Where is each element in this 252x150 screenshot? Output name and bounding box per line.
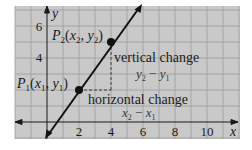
x-tick-10: 10 — [201, 124, 214, 139]
point-p1 — [75, 86, 83, 94]
vertical-change-label: vertical change — [114, 50, 199, 65]
slope-diagram: 2 4 6 8 10 x 6 4 y P2(x2, y2) P1(x1, y1)… — [0, 0, 252, 150]
point-p2 — [107, 38, 115, 46]
x-tick-8: 8 — [172, 124, 179, 139]
horizontal-change-formula: x2 − x1 — [121, 105, 155, 122]
y-tick-4: 4 — [36, 50, 43, 65]
x-axis-label: x — [229, 124, 237, 139]
y-tick-6: 6 — [36, 19, 43, 34]
y-axis-label: y — [50, 6, 59, 21]
vertical-change-formula: y2 − y1 — [134, 66, 169, 83]
x-tick-4: 4 — [108, 124, 115, 139]
x-tick-2: 2 — [76, 124, 83, 139]
x-tick-6: 6 — [140, 124, 147, 139]
